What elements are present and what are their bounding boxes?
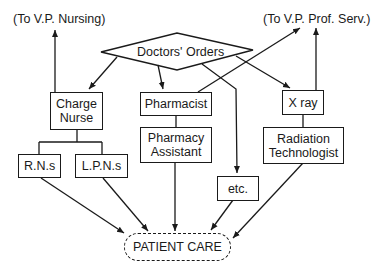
etc-node: etc.: [217, 176, 259, 201]
rns-node: R.N.s: [18, 154, 61, 178]
arrow-orders-to-xray: [236, 56, 290, 88]
vp-nursing-label: (To V.P. Nursing): [13, 12, 105, 26]
rns-label: R.N.s: [24, 159, 55, 173]
charge-nurse-node: Charge Nurse: [50, 92, 103, 130]
charge-nurse-line1: Charge: [56, 97, 97, 111]
pharmacist-label: Pharmacist: [145, 97, 208, 111]
vp-prof-serv-label: (To V.P. Prof. Serv.): [263, 12, 370, 26]
pharmacy-assistant-line1: Pharmacy: [148, 131, 204, 145]
lpns-node: L.P.N.s: [75, 154, 128, 178]
xray-node: X ray: [282, 90, 324, 115]
etc-label: etc.: [228, 182, 248, 196]
pharmacist-node: Pharmacist: [140, 92, 212, 116]
xray-label: X ray: [288, 96, 317, 110]
radiation-tech-line2: Technologist: [269, 146, 339, 160]
radiation-tech-line1: Radiation: [277, 132, 330, 146]
pharmacy-assistant-node: Pharmacy Assistant: [140, 127, 212, 163]
doctors-orders-label: Doctors' Orders: [137, 45, 224, 59]
arrow-orders-to-charge-nurse: [89, 57, 117, 89]
lpns-label: L.P.N.s: [82, 159, 121, 173]
charge-nurse-line2: Nurse: [60, 111, 93, 125]
patient-care-terminal: PATIENT CARE: [124, 233, 231, 261]
patient-care-flow-diagram: (To V.P. Nursing) (To V.P. Prof. Serv.) …: [0, 0, 377, 279]
arrow-rns-to-patient-care: [41, 178, 124, 233]
radiation-technologist-node: Radiation Technologist: [263, 127, 344, 164]
patient-care-label: PATIENT CARE: [133, 240, 222, 254]
pharmacy-assistant-line2: Assistant: [151, 145, 202, 159]
arrow-etc-to-patient-care: [211, 200, 233, 230]
arrow-orders-to-pharmacist: [158, 65, 163, 89]
